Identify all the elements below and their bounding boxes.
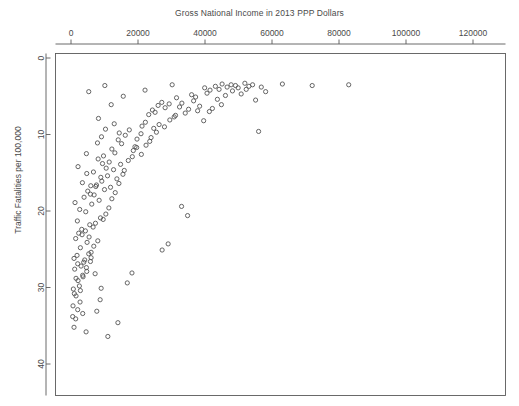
data-point bbox=[239, 92, 243, 96]
data-point bbox=[84, 152, 88, 156]
x-axis-tick-label: 60000 bbox=[260, 28, 284, 38]
data-point bbox=[87, 235, 91, 239]
data-point bbox=[84, 330, 88, 334]
data-point bbox=[243, 81, 247, 85]
data-point bbox=[198, 104, 202, 108]
data-point bbox=[78, 300, 82, 304]
data-point bbox=[160, 248, 164, 252]
data-point bbox=[97, 198, 101, 202]
data-point bbox=[154, 130, 158, 134]
page-title: Gross National Income in 2013 PPP Dollar… bbox=[0, 8, 519, 18]
data-point bbox=[85, 171, 89, 175]
data-point bbox=[152, 126, 156, 130]
x-axis-tick-label: 120000 bbox=[459, 28, 488, 38]
data-point bbox=[166, 242, 170, 246]
data-point bbox=[95, 309, 99, 313]
data-point bbox=[92, 244, 96, 248]
data-point bbox=[264, 90, 268, 94]
data-point bbox=[223, 93, 227, 97]
data-point bbox=[213, 84, 217, 88]
data-point bbox=[107, 206, 111, 210]
data-point bbox=[196, 109, 200, 113]
y-axis-tick-label: 20 bbox=[36, 206, 46, 216]
data-point bbox=[190, 93, 194, 97]
data-point bbox=[99, 286, 103, 290]
data-point bbox=[78, 246, 82, 250]
data-point bbox=[156, 103, 160, 107]
data-point bbox=[107, 160, 111, 164]
y-axis-label: Traffic Fatalities per 100,000 bbox=[13, 110, 23, 250]
data-point bbox=[99, 135, 103, 139]
data-point bbox=[250, 83, 254, 87]
data-point bbox=[121, 172, 125, 176]
data-point bbox=[130, 155, 134, 159]
data-point bbox=[310, 83, 314, 87]
data-point bbox=[71, 304, 75, 308]
data-point bbox=[100, 161, 104, 165]
data-point bbox=[81, 311, 85, 315]
data-point bbox=[110, 147, 114, 151]
data-point bbox=[347, 83, 351, 87]
x-axis-tick-label: 100000 bbox=[392, 28, 421, 38]
data-point bbox=[117, 131, 121, 135]
data-point bbox=[96, 116, 100, 120]
data-point bbox=[130, 271, 134, 275]
data-point bbox=[82, 195, 86, 199]
data-point bbox=[179, 204, 183, 208]
data-point bbox=[225, 85, 229, 89]
data-point bbox=[103, 83, 107, 87]
data-point bbox=[210, 106, 214, 110]
data-point bbox=[220, 82, 224, 86]
data-point bbox=[143, 120, 147, 124]
data-point bbox=[113, 191, 117, 195]
data-point bbox=[74, 317, 78, 321]
data-point bbox=[98, 298, 102, 302]
data-point bbox=[111, 168, 115, 172]
data-point bbox=[183, 111, 187, 115]
data-point bbox=[174, 96, 178, 100]
data-point bbox=[167, 102, 171, 106]
data-point bbox=[162, 125, 166, 129]
data-point bbox=[116, 321, 120, 325]
data-point bbox=[185, 213, 189, 217]
data-point bbox=[87, 90, 91, 94]
data-point bbox=[135, 137, 139, 141]
data-point bbox=[144, 143, 148, 147]
data-point bbox=[80, 181, 84, 185]
data-point bbox=[219, 103, 223, 107]
data-point bbox=[230, 89, 234, 93]
data-point bbox=[117, 181, 121, 185]
data-point bbox=[112, 122, 116, 126]
data-point bbox=[126, 158, 130, 162]
data-point bbox=[101, 154, 105, 158]
data-point bbox=[149, 135, 153, 139]
x-axis-tick-label: 0 bbox=[69, 28, 74, 38]
data-point bbox=[73, 267, 77, 271]
data-point bbox=[83, 229, 87, 233]
data-point bbox=[73, 200, 77, 204]
data-point bbox=[91, 170, 95, 174]
data-point bbox=[86, 189, 90, 193]
data-point bbox=[147, 113, 151, 117]
data-point bbox=[192, 99, 196, 103]
y-axis-tick-label: 10 bbox=[36, 130, 46, 140]
x-axis-tick-label: 20000 bbox=[126, 28, 150, 38]
scatter-plot-figure: Gross National Income in 2013 PPP Dollar… bbox=[0, 0, 519, 406]
data-point bbox=[257, 129, 261, 133]
y-axis-tick-label: 30 bbox=[36, 283, 46, 293]
data-point bbox=[259, 85, 263, 89]
data-point bbox=[108, 185, 112, 189]
data-point bbox=[71, 287, 75, 291]
data-point bbox=[96, 157, 100, 161]
data-point bbox=[76, 165, 80, 169]
data-point bbox=[79, 264, 83, 268]
data-point bbox=[106, 334, 110, 338]
data-point bbox=[163, 106, 167, 110]
data-point bbox=[93, 272, 97, 276]
data-point bbox=[153, 110, 157, 114]
data-point bbox=[109, 103, 113, 107]
x-axis-tick-label: 80000 bbox=[327, 28, 351, 38]
data-point bbox=[139, 152, 143, 156]
data-point bbox=[104, 166, 108, 170]
data-point bbox=[93, 221, 97, 225]
